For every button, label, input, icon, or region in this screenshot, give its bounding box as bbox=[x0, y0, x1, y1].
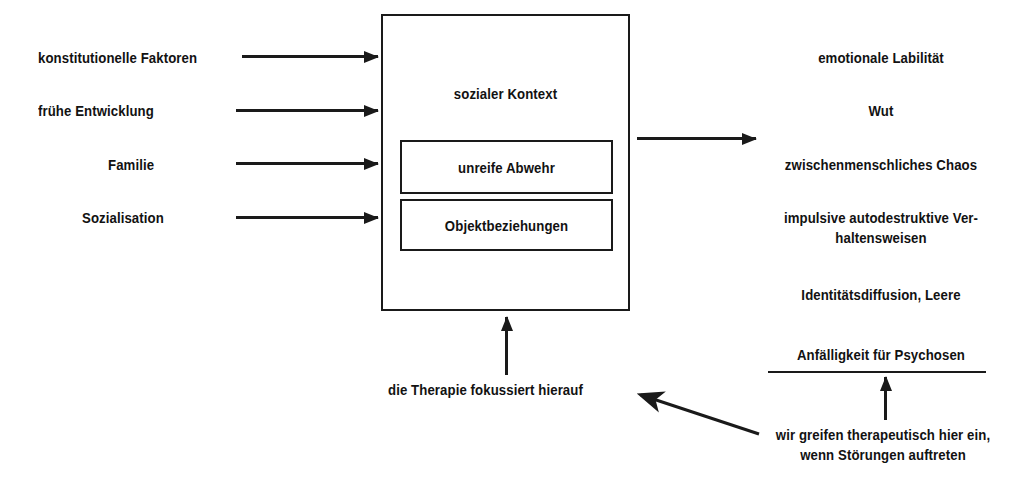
input-arrow-3 bbox=[236, 162, 378, 165]
outcome-label-anfaelligkeit-fuer-psychosen: Anfälligkeit für Psychosen bbox=[775, 345, 988, 365]
therapy-focus-label: die Therapie fokussiert hierauf bbox=[388, 380, 583, 400]
input-arrow-1 bbox=[242, 55, 378, 58]
unreife-abwehr-box: unreife Abwehr bbox=[400, 140, 613, 194]
outcome-label-identitaetsdiffusion-leere: Identitätsdiffusion, Leere bbox=[775, 285, 988, 305]
outcome-label-impulsive-verhaltensweisen: impulsive autodestruktive Ver- haltenswe… bbox=[773, 208, 989, 249]
objektbeziehungen-box: Objektbeziehungen bbox=[400, 199, 613, 251]
sozialer-kontext-title: sozialer Kontext bbox=[398, 84, 614, 104]
input-arrow-2 bbox=[236, 109, 378, 112]
input-label-konstitutionelle-faktoren: konstitutionelle Faktoren bbox=[38, 48, 197, 68]
input-label-sozialisation: Sozialisation bbox=[82, 208, 164, 228]
psychosen-underline bbox=[768, 371, 986, 373]
input-label-familie: Familie bbox=[108, 155, 154, 175]
input-arrow-4 bbox=[236, 216, 378, 219]
outcome-label-zwischenmenschliches-chaos: zwischenmenschliches Chaos bbox=[772, 155, 990, 175]
intervention-diagonal-arrow bbox=[625, 380, 775, 445]
diagram-canvas: konstitutionelle Faktoren frühe Entwickl… bbox=[0, 0, 1021, 500]
objektbeziehungen-label: Objektbeziehungen bbox=[415, 216, 599, 236]
outcome-label-wut: Wut bbox=[775, 101, 988, 121]
therapy-focus-up-arrow bbox=[505, 317, 508, 375]
input-label-fruehe-entwicklung: frühe Entwicklung bbox=[38, 101, 154, 121]
intervention-up-arrow bbox=[884, 377, 887, 420]
outcome-arrow bbox=[637, 137, 756, 140]
intervention-label: wir greifen therapeutisch hier ein, wenn… bbox=[773, 425, 993, 466]
outcome-label-emotionale-labilitaet: emotionale Labilität bbox=[775, 48, 988, 68]
unreife-abwehr-label: unreife Abwehr bbox=[415, 158, 599, 178]
